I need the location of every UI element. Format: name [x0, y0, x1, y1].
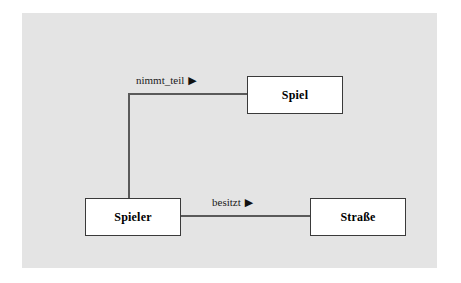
connector-spieler-to-spiel-horizontal [128, 93, 248, 95]
entity-label-strasse: Straße [340, 210, 375, 225]
relationship-label-besitzt-text: besitzt [212, 196, 241, 208]
relationship-label-besitzt: besitzt▶ [212, 195, 253, 209]
direction-arrow-icon: ▶ [245, 195, 253, 209]
entity-label-spiel: Spiel [282, 88, 308, 103]
entity-box-spieler[interactable]: Spieler [85, 198, 181, 236]
relationship-label-nimmt-teil: nimmt_teil▶ [136, 73, 197, 87]
entity-label-spieler: Spieler [114, 210, 151, 225]
entity-box-strasse[interactable]: Straße [310, 198, 406, 236]
relationship-label-nimmt-teil-text: nimmt_teil [136, 74, 184, 86]
entity-box-spiel[interactable]: Spiel [247, 76, 343, 114]
connector-spieler-to-strasse [180, 215, 311, 217]
diagram-canvas: nimmt_teil▶ besitzt▶ Spiel Spieler Straß… [0, 0, 461, 283]
diagram-panel: nimmt_teil▶ besitzt▶ Spiel Spieler Straß… [22, 13, 437, 268]
direction-arrow-icon: ▶ [188, 73, 196, 87]
connector-spieler-to-spiel-vertical [128, 93, 130, 199]
